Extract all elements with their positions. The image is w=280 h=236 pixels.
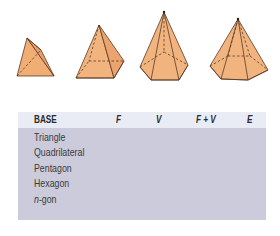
gon-suffix: -gon <box>39 193 57 205</box>
column-header-faces: F <box>116 114 121 125</box>
table-row-hexagon: Hexagon <box>34 177 69 189</box>
table-row-triangle: Triangle <box>34 131 65 143</box>
column-header-edges: E <box>247 114 252 125</box>
column-header-base: BASE <box>34 114 57 125</box>
column-header-faces-plus-vertices: F + V <box>196 114 216 125</box>
faces-vertices-edges-table: BASE F V F + V E Triangle Quadrilateral … <box>18 112 266 220</box>
table-row-pentagon: Pentagon <box>34 162 72 174</box>
triangular-pyramid <box>17 38 54 76</box>
table-header: BASE F V F + V E <box>18 112 266 128</box>
pentagonal-pyramid <box>140 11 188 80</box>
table-row-quadrilateral: Quadrilateral <box>34 146 84 158</box>
table-row-n-gon: n-gon <box>34 193 57 205</box>
square-pyramid <box>76 25 124 78</box>
column-header-vertices: V <box>156 114 161 125</box>
pyramids-figure <box>0 0 280 100</box>
hexagonal-pyramid <box>210 18 268 80</box>
